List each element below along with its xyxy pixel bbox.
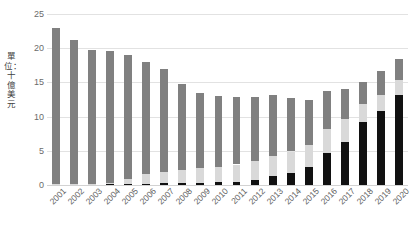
bar-segment-series-middle-lightgray-2002 [70, 184, 78, 185]
x-axis-tick-labels: 2001200220032004200520062007200820092010… [47, 186, 408, 229]
bar-segment-series-top-darkgray-2002 [70, 40, 78, 184]
bar-segment-series-top-darkgray-2007 [160, 69, 168, 172]
bar-segment-series-middle-lightgray-2007 [160, 172, 168, 184]
bar-segment-series-bottom-black-2007 [160, 183, 168, 185]
bar-segment-series-bottom-black-2010 [215, 182, 223, 185]
bar-2018[interactable] [359, 14, 367, 185]
bar-segment-series-middle-lightgray-2013 [269, 156, 277, 176]
bar-segment-series-top-darkgray-2012 [251, 97, 259, 161]
bar-segment-series-bottom-black-2004 [106, 184, 114, 185]
bar-segment-series-top-darkgray-2003 [88, 50, 96, 184]
bar-segment-series-top-darkgray-2018 [359, 82, 367, 104]
bar-segment-series-middle-lightgray-2017 [341, 119, 349, 142]
y-tick-label-0: 0 [20, 180, 44, 190]
bar-2007[interactable] [160, 14, 168, 185]
bar-segment-series-top-darkgray-2004 [106, 51, 114, 183]
y-axis-tick-labels: 0510152025 [0, 0, 44, 229]
y-tick-label-20: 20 [20, 43, 44, 53]
bar-2015[interactable] [305, 14, 313, 185]
bar-segment-series-bottom-black-2012 [251, 180, 259, 185]
bar-segment-series-middle-lightgray-2003 [88, 184, 96, 185]
y-tick-label-5: 5 [20, 146, 44, 156]
bar-segment-series-top-darkgray-2020 [395, 59, 403, 80]
bar-segment-series-middle-lightgray-2005 [124, 179, 132, 184]
bar-segment-series-bottom-black-2005 [124, 184, 132, 185]
bar-segment-series-bottom-black-2018 [359, 122, 367, 185]
bar-segment-series-bottom-black-2011 [233, 182, 241, 185]
stacked-bar-chart: 單位：十億美元 0510152025 200120022003200420052… [0, 0, 415, 229]
bar-2013[interactable] [269, 14, 277, 185]
bar-2014[interactable] [287, 14, 295, 185]
bar-segment-series-middle-lightgray-2020 [395, 80, 403, 94]
bar-segment-series-middle-lightgray-2009 [196, 168, 204, 182]
bar-segment-series-middle-lightgray-2006 [142, 174, 150, 184]
bar-segment-series-bottom-black-2008 [178, 183, 186, 185]
bar-2017[interactable] [341, 14, 349, 185]
bar-2006[interactable] [142, 14, 150, 185]
bar-segment-series-top-darkgray-2015 [305, 100, 313, 145]
bar-segment-series-middle-lightgray-2010 [215, 167, 223, 183]
bar-2005[interactable] [124, 14, 132, 185]
bar-segment-series-top-darkgray-2019 [377, 71, 385, 96]
bar-segment-series-bottom-black-2001 [52, 184, 60, 185]
bar-segment-series-middle-lightgray-2012 [251, 161, 259, 179]
bar-2008[interactable] [178, 14, 186, 185]
bar-segment-series-middle-lightgray-2016 [323, 129, 331, 153]
bar-2009[interactable] [196, 14, 204, 185]
y-tick-label-15: 15 [20, 77, 44, 87]
bar-2011[interactable] [233, 14, 241, 185]
bar-2012[interactable] [251, 14, 259, 185]
bar-segment-series-top-darkgray-2013 [269, 95, 277, 156]
bar-segment-series-middle-lightgray-2001 [52, 184, 60, 185]
y-tick-label-25: 25 [20, 9, 44, 19]
bar-segment-series-top-darkgray-2014 [287, 98, 295, 151]
bar-segment-series-bottom-black-2020 [395, 95, 403, 185]
y-tick-label-10: 10 [20, 112, 44, 122]
bar-segment-series-bottom-black-2016 [323, 153, 331, 185]
plot-area [47, 14, 408, 185]
bar-segment-series-top-darkgray-2009 [196, 93, 204, 169]
bar-series-container [47, 14, 408, 185]
bar-segment-series-bottom-black-2019 [377, 111, 385, 185]
bar-2020[interactable] [395, 14, 403, 185]
bar-segment-series-bottom-black-2017 [341, 142, 349, 185]
bar-2003[interactable] [88, 14, 96, 185]
bar-segment-series-middle-lightgray-2008 [178, 170, 186, 183]
bar-segment-series-middle-lightgray-2019 [377, 95, 385, 111]
bar-segment-series-top-darkgray-2005 [124, 55, 132, 178]
bar-segment-series-bottom-black-2015 [305, 167, 313, 185]
bar-segment-series-top-darkgray-2008 [178, 84, 186, 170]
bar-segment-series-bottom-black-2003 [88, 184, 96, 185]
bar-segment-series-top-darkgray-2011 [233, 97, 241, 165]
bar-segment-series-bottom-black-2006 [142, 184, 150, 185]
bar-segment-series-bottom-black-2002 [70, 184, 78, 185]
bar-segment-series-top-darkgray-2006 [142, 62, 150, 174]
bar-2004[interactable] [106, 14, 114, 185]
bar-segment-series-top-darkgray-2016 [323, 91, 331, 129]
bar-2010[interactable] [215, 14, 223, 185]
bar-segment-series-middle-lightgray-2018 [359, 104, 367, 122]
bar-segment-series-middle-lightgray-2014 [287, 152, 295, 173]
bar-segment-series-top-darkgray-2001 [52, 28, 60, 184]
bar-segment-series-middle-lightgray-2011 [233, 165, 241, 182]
bar-2001[interactable] [52, 14, 60, 185]
bar-2002[interactable] [70, 14, 78, 185]
bar-segment-series-middle-lightgray-2015 [305, 145, 313, 168]
bar-segment-series-middle-lightgray-2004 [106, 183, 114, 184]
bar-2019[interactable] [377, 14, 385, 185]
bar-segment-series-bottom-black-2009 [196, 183, 204, 185]
bar-segment-series-bottom-black-2013 [269, 176, 277, 185]
bar-segment-series-top-darkgray-2017 [341, 89, 349, 119]
bar-segment-series-top-darkgray-2010 [215, 96, 223, 166]
bar-2016[interactable] [323, 14, 331, 185]
bar-segment-series-bottom-black-2014 [287, 173, 295, 185]
